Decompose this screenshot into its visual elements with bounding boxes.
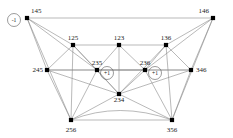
graph-vertex-label: 356: [167, 126, 178, 134]
graph-vertex-label: 145: [31, 7, 42, 15]
graph-vertex[interactable]: [164, 43, 168, 47]
graph-diagram: 145146125123136245235236346234256356 -1+…: [0, 0, 233, 138]
graph-canvas: 145146125123136245235236346234256356 -1+…: [0, 0, 233, 138]
graph-edge: [119, 45, 166, 94]
graph-edge: [172, 70, 191, 120]
graph-vertex-label: 234: [114, 96, 125, 104]
graph-vertex-label: 146: [199, 7, 210, 15]
graph-vertex-label: 346: [196, 66, 207, 74]
badges-layer: -1+1+1: [8, 14, 162, 80]
graph-edge: [119, 94, 172, 120]
vertex-weight-label: +1: [152, 70, 158, 76]
graph-vertex[interactable]: [25, 16, 29, 20]
graph-vertex[interactable]: [189, 68, 193, 72]
graph-vertex-label: 136: [161, 34, 172, 42]
graph-vertex[interactable]: [71, 43, 75, 47]
graph-vertex[interactable]: [211, 16, 215, 20]
graph-vertex-label: 236: [140, 59, 151, 67]
graph-edge: [27, 18, 97, 70]
graph-vertex[interactable]: [170, 118, 174, 122]
graph-edge: [71, 94, 119, 120]
vertex-labels-layer: 145146125123136245235236346234256356: [31, 7, 210, 134]
graph-edge: [27, 18, 73, 45]
graph-edge: [47, 70, 71, 120]
graph-vertex-label: 123: [114, 34, 125, 42]
graph-edge: [166, 45, 172, 120]
graph-edge: [119, 70, 145, 94]
graph-vertex[interactable]: [69, 118, 73, 122]
vertex-weight-label: -1: [12, 17, 17, 23]
vertices-layer: [25, 16, 215, 122]
graph-vertex[interactable]: [143, 68, 147, 72]
vertex-weight-label: +1: [104, 70, 110, 76]
graph-edge: [71, 45, 73, 120]
graph-vertex[interactable]: [45, 68, 49, 72]
graph-vertex-label: 235: [92, 59, 103, 67]
graph-edge: [71, 70, 97, 120]
graph-edge: [47, 45, 73, 70]
graph-vertex-label: 245: [33, 66, 44, 74]
graph-vertex-label: 256: [66, 126, 77, 134]
graph-vertex-label: 125: [68, 34, 79, 42]
graph-vertex[interactable]: [95, 68, 99, 72]
graph-vertex[interactable]: [117, 43, 121, 47]
graph-edge: [166, 18, 213, 45]
graph-edge: [166, 45, 191, 70]
